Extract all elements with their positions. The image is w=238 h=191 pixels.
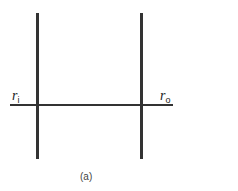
label-r-i-sub: i bbox=[17, 95, 19, 105]
label-r-o: ro bbox=[160, 89, 170, 105]
right-vertical-line bbox=[140, 13, 143, 159]
horizontal-line bbox=[10, 104, 173, 106]
label-r-o-sub: o bbox=[165, 95, 170, 105]
label-r-i: ri bbox=[12, 89, 19, 105]
left-vertical-line bbox=[36, 13, 39, 159]
figure-caption: (a) bbox=[80, 172, 92, 182]
